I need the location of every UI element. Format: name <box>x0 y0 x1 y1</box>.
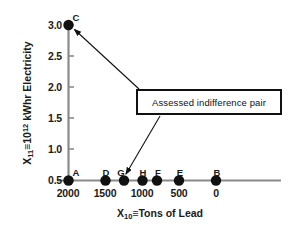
y-axis-title-sub: 11 <box>26 150 35 158</box>
ytick-label-1: 2.5 <box>36 50 62 62</box>
ytick-label-0: 3.0 <box>36 19 62 31</box>
point-label-B: B <box>210 167 224 178</box>
point-label-C: C <box>69 12 83 23</box>
annotation-arrow-to-C <box>75 30 140 90</box>
xtick-label-2: 1000 <box>124 187 160 199</box>
chart-figure: 3.0 2.5 2.0 1.5 1.0 0.5 2000 1500 1000 5… <box>0 0 294 228</box>
xtick-label-1: 1500 <box>87 187 123 199</box>
y-axis-title: X11≡1012 kWhr Electricity <box>21 13 35 193</box>
point-label-H: H <box>136 167 150 178</box>
x-axis-title: X10≡Tons of Lead <box>60 207 260 221</box>
point-label-F: F <box>151 167 165 178</box>
annotation-label: Assessed indifference pair <box>152 97 266 108</box>
y-axis-title-text <box>21 121 33 124</box>
x-axis-title-text: Tons of Lead <box>138 207 203 219</box>
xtick-label-4: 0 <box>198 187 234 199</box>
ytick-label-3: 1.5 <box>36 112 62 124</box>
y-axis-title-base: 10 <box>21 132 33 144</box>
y-axis-title-var: X <box>21 158 33 165</box>
point-label-E: E <box>173 167 187 178</box>
annotation-box[interactable]: Assessed indifference pair <box>136 89 282 115</box>
xtick-label-3: 500 <box>161 187 197 199</box>
x-axis-title-var: X <box>117 207 124 219</box>
xtick-label-0: 2000 <box>50 187 86 199</box>
ytick-label-4: 1.0 <box>36 143 62 155</box>
ytick-label-5: 0.5 <box>36 174 62 186</box>
plot-area: 3.0 2.5 2.0 1.5 1.0 0.5 2000 1500 1000 5… <box>0 0 294 228</box>
point-label-A: A <box>69 167 83 178</box>
point-label-G: G <box>114 167 128 178</box>
y-axis-title-exponent: 12 <box>21 124 30 132</box>
ytick-label-2: 2.0 <box>36 81 62 93</box>
y-axis-title-equiv: ≡ <box>21 144 33 150</box>
y-axis-title-unit: kWhr Electricity <box>21 41 33 120</box>
annotation-arrow-to-G <box>126 116 160 174</box>
point-label-D: D <box>99 167 113 178</box>
